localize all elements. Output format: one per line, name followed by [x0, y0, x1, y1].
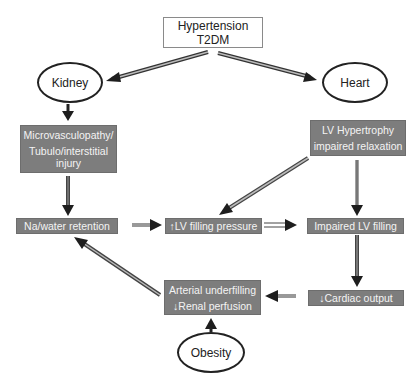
- node-impaired-lv-filling: Impaired LV filling: [307, 218, 404, 234]
- arrow-cardiac-output-to-arterial-underfilling: [265, 290, 296, 302]
- node-text: ↓Renal perfusion: [173, 298, 252, 314]
- node-text: injury: [56, 157, 81, 169]
- arrow-lv-hypertrophy-to-impaired-lv-filling: [351, 160, 363, 216]
- node-heart: Heart: [322, 62, 388, 103]
- arrow-lv-hypertrophy-to-lv-filling-pressure: [219, 158, 308, 215]
- arrow-microvasculopathy-to-na-water: [62, 176, 74, 216]
- node-text: Arterial underfilling: [169, 282, 256, 298]
- node-obesity: Obesity: [177, 332, 245, 373]
- node-text: impaired relaxation: [314, 138, 403, 154]
- node-microvasculopathy: Microvasculopathy/ Tubulo/interstitial i…: [20, 125, 117, 173]
- node-text: Impaired LV filling: [314, 218, 397, 234]
- node-text: Microvasculopathy/: [24, 129, 114, 141]
- arrow-lv-filling-pressure-to-impaired-lv-filling: [264, 219, 297, 231]
- node-hypertension-t2dm: Hypertension T2DM: [163, 17, 263, 48]
- node-na-water-retention: Na/water retention: [16, 218, 118, 234]
- node-text: ↑LV filling pressure: [170, 218, 258, 234]
- node-text: LV Hypertrophy: [322, 122, 394, 138]
- node-text: Tubulo/interstitial: [29, 145, 108, 157]
- arrow-root-to-kidney: [106, 52, 208, 82]
- node-text: Heart: [340, 76, 369, 90]
- arrow-arterial-underfilling-to-na-water: [74, 237, 160, 295]
- node-arterial-underfilling: Arterial underfilling ↓Renal perfusion: [164, 280, 261, 315]
- node-lv-filling-pressure: ↑LV filling pressure: [165, 218, 262, 234]
- arrow-root-to-heart: [218, 53, 317, 82]
- node-cardiac-output: ↓Cardiac output: [308, 290, 404, 306]
- arrow-na-water-to-lv-filling-pressure: [132, 219, 162, 231]
- node-text: Hypertension: [178, 19, 249, 33]
- arrow-impaired-lv-filling-to-cardiac-output: [351, 235, 363, 287]
- node-text: Na/water retention: [24, 218, 110, 234]
- connector-arrows: [0, 0, 420, 387]
- node-text: Kidney: [52, 76, 89, 90]
- flowchart-diagram: Hypertension T2DM Kidney Heart Microvasc…: [0, 0, 420, 387]
- arrow-kidney-to-microvasculopathy: [62, 104, 74, 121]
- arrow-obesity-to-arterial-underfilling: [205, 318, 217, 332]
- node-text: T2DM: [197, 33, 230, 47]
- node-text: Obesity: [191, 346, 232, 360]
- node-lv-hypertrophy: LV Hypertrophy impaired relaxation: [310, 120, 406, 156]
- node-text: ↓Cardiac output: [319, 290, 393, 306]
- node-kidney: Kidney: [37, 62, 103, 103]
